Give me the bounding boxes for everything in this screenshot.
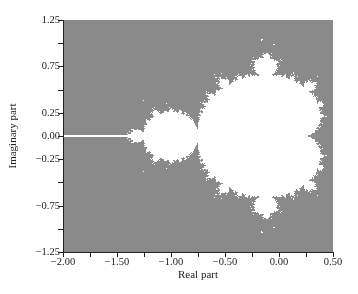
x-axis-label: Real part [178,268,218,280]
x-tick-label: 0.00 [270,256,288,267]
mandelbrot-plot-area [63,20,333,252]
x-tick-label: −2.00 [51,256,75,267]
x-tick-mark [306,252,307,257]
x-tick-label: −1.00 [159,256,183,267]
y-tick-mark [58,182,63,183]
y-tick-label: 0.00 [42,130,60,141]
y-tick-label: 0.75 [42,60,60,71]
y-tick-mark [58,43,63,44]
y-tick-label: 0.25 [42,107,60,118]
x-tick-label: 0.50 [324,256,342,267]
y-tick-mark [58,229,63,230]
y-tick-label: 1.25 [42,14,60,25]
y-tick-label: −0.75 [36,200,60,211]
mandelbrot-set-image [63,20,333,252]
x-tick-mark [144,252,145,257]
y-tick-label: −0.25 [36,153,60,164]
x-tick-label: −0.50 [213,256,237,267]
y-tick-mark [58,90,63,91]
x-tick-mark [90,252,91,257]
x-tick-mark [198,252,199,257]
x-tick-label: −1.50 [105,256,129,267]
y-axis-line [63,20,64,252]
x-tick-mark [252,252,253,257]
y-axis-label: Imaginary part [6,103,18,168]
